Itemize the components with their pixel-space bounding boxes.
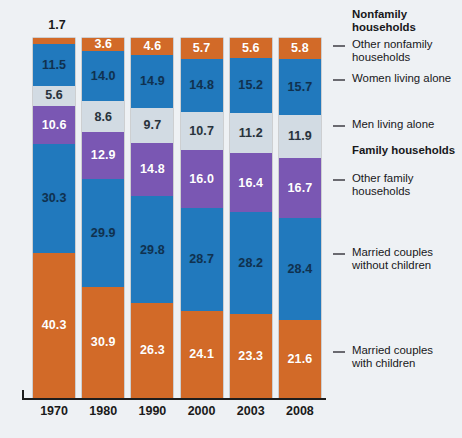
segment-value-label: 14.8 — [140, 163, 165, 176]
legend-item-married-couples-with-children[interactable]: Married coupleswith children — [352, 344, 462, 369]
bar-segment[interactable]: 3.6 — [82, 38, 124, 51]
bar-segment[interactable]: 4.6 — [131, 38, 173, 55]
bar-segment[interactable]: 5.8 — [279, 38, 321, 59]
bar-segment[interactable]: 14.8 — [181, 59, 223, 112]
segment-value-label: 15.2 — [238, 79, 263, 92]
stacked-bar: 3.614.08.612.929.930.9 — [82, 38, 124, 398]
segment-value-label: 11.9 — [288, 130, 312, 143]
segment-value-label: 23.3 — [238, 350, 263, 363]
segment-value-label: 5.6 — [45, 89, 63, 102]
legend-label-line1: Married couples — [352, 344, 462, 357]
legend-label-line2: households — [352, 185, 462, 198]
bar-segment[interactable]: 30.3 — [33, 144, 75, 253]
segment-value-label: 28.2 — [238, 257, 263, 270]
bar-segment[interactable]: 15.7 — [279, 59, 321, 115]
bar-segment[interactable]: 16.7 — [279, 158, 321, 218]
segment-value-label: 10.6 — [42, 119, 67, 132]
bar-segment[interactable]: 5.6 — [33, 86, 75, 106]
bar-segment[interactable]: 12.9 — [82, 132, 124, 178]
x-axis-line — [22, 398, 326, 400]
legend-item-married-couples-without-children[interactable]: Married coupleswithout children — [352, 246, 462, 271]
legend-leader-line — [333, 79, 345, 81]
bar-segment[interactable]: 5.7 — [181, 38, 223, 59]
bar-segment[interactable]: 14.9 — [131, 55, 173, 109]
segment-value-label: 26.3 — [140, 344, 165, 357]
y-axis-tick-mark — [22, 390, 24, 400]
legend-label-line2: households — [352, 51, 462, 64]
bar-segment[interactable]: 14.8 — [131, 143, 173, 196]
bar-column-2000[interactable]: 5.714.810.716.028.724.1 — [181, 38, 223, 398]
segment-value-label: 40.3 — [42, 319, 67, 332]
bar-segment[interactable]: 28.2 — [230, 212, 272, 314]
legend-leader-line — [333, 253, 345, 255]
bar-column-1990[interactable]: 4.614.99.714.829.826.3 — [131, 38, 173, 398]
bar-segment[interactable]: 21.6 — [279, 320, 321, 398]
legend-item-men-living-alone[interactable]: Men living alone — [352, 118, 462, 131]
legend-item-nonfamily-households[interactable]: Nonfamilyhouseholds — [352, 8, 462, 33]
bar-segment[interactable]: 26.3 — [131, 303, 173, 398]
legend-label-line2: households — [352, 21, 462, 34]
stacked-bar: 5.615.211.216.428.223.3 — [230, 38, 272, 398]
bar-column-2003[interactable]: 5.615.211.216.428.223.3 — [230, 38, 272, 398]
legend-item-family-households[interactable]: Family households — [352, 144, 462, 157]
stacked-bar: 1.711.55.610.630.340.3 — [33, 38, 75, 398]
bar-segment[interactable]: 24.1 — [181, 311, 223, 398]
segment-value-label: 15.7 — [288, 81, 313, 94]
segment-value-label: 11.2 — [239, 127, 263, 140]
legend-item-other-family-households[interactable]: Other familyhouseholds — [352, 172, 462, 197]
legend-label-line1: Women living alone — [352, 72, 462, 85]
bar-segment[interactable]: 23.3 — [230, 314, 272, 398]
segment-value-label: 3.6 — [94, 38, 112, 51]
segment-value-label: 5.7 — [193, 42, 211, 55]
bar-segment[interactable]: 16.4 — [230, 153, 272, 212]
segment-value-label: 29.8 — [140, 244, 165, 257]
bar-segment[interactable]: 10.6 — [33, 106, 75, 144]
bar-segment[interactable]: 14.0 — [82, 51, 124, 101]
bar-segment[interactable]: 15.2 — [230, 58, 272, 113]
legend-leader-line — [333, 179, 345, 181]
external-value-label-1970: 1.7 — [33, 18, 81, 32]
bar-segment[interactable]: 30.9 — [82, 287, 124, 398]
bar-segment[interactable]: 16.0 — [181, 150, 223, 208]
bar-segment[interactable]: 5.6 — [230, 38, 272, 58]
legend-item-women-living-alone[interactable]: Women living alone — [352, 72, 462, 85]
bar-segment[interactable]: 40.3 — [33, 253, 75, 398]
stacked-bar: 5.815.711.916.728.421.6 — [279, 38, 321, 398]
bar-column-1970[interactable]: 1.711.55.610.630.340.3 — [33, 38, 75, 398]
bar-segment[interactable]: 28.4 — [279, 218, 321, 320]
legend-item-other-nonfamily-households[interactable]: Other nonfamilyhouseholds — [352, 38, 462, 63]
segment-value-label: 12.9 — [91, 149, 116, 162]
bar-segment[interactable]: 29.8 — [131, 196, 173, 303]
legend-label-line1: Men living alone — [352, 118, 462, 131]
segment-value-label: 8.6 — [94, 111, 112, 124]
legend-label-line1: Other nonfamily — [352, 38, 462, 51]
segment-value-label: 9.7 — [144, 119, 162, 132]
bar-segment[interactable]: 11.9 — [279, 115, 321, 158]
legend-label-line2: without children — [352, 259, 462, 272]
bar-column-2008[interactable]: 5.815.711.916.728.421.6 — [279, 38, 321, 398]
bar-segment[interactable]: 10.7 — [181, 112, 223, 151]
legend-leader-line — [333, 45, 345, 47]
chart-canvas: 1.7 1.711.55.610.630.340.33.614.08.612.9… — [0, 0, 462, 438]
bar-segment[interactable]: 11.5 — [33, 44, 75, 85]
bar-segment[interactable]: 29.9 — [82, 179, 124, 287]
bar-column-1980[interactable]: 3.614.08.612.929.930.9 — [82, 38, 124, 398]
segment-value-label: 16.4 — [238, 177, 263, 190]
bar-segment[interactable]: 11.2 — [230, 113, 272, 153]
segment-value-label: 24.1 — [189, 348, 214, 361]
x-axis-label-2008: 2008 — [270, 404, 330, 418]
bar-segment[interactable]: 28.7 — [181, 208, 223, 311]
segment-value-label: 30.9 — [91, 336, 116, 349]
segment-value-label: 28.7 — [189, 253, 214, 266]
bar-segment[interactable]: 8.6 — [82, 101, 124, 132]
segment-value-label: 11.5 — [42, 59, 66, 72]
legend-label-line2: with children — [352, 357, 462, 370]
segment-value-label: 16.7 — [288, 182, 313, 195]
legend-label-line1: Other family — [352, 172, 462, 185]
segment-value-label: 29.9 — [91, 227, 116, 240]
chart-legend: NonfamilyhouseholdsOther nonfamilyhouseh… — [330, 0, 462, 438]
legend-leader-line — [333, 125, 345, 127]
bar-segment[interactable]: 9.7 — [131, 108, 173, 143]
segment-value-label: 28.4 — [288, 263, 313, 276]
legend-label-line1: Nonfamily — [352, 8, 462, 21]
